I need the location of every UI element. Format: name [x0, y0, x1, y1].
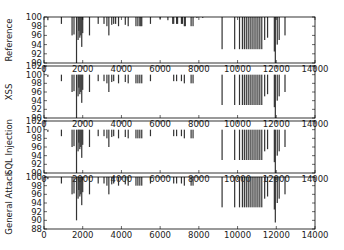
bar	[139, 130, 140, 139]
bar	[128, 130, 129, 139]
bar	[267, 177, 268, 197]
y-tick-label: 100	[26, 12, 42, 22]
bar	[221, 75, 222, 105]
bar	[61, 75, 62, 82]
bar	[251, 177, 252, 207]
bar	[103, 75, 104, 82]
bar	[150, 75, 151, 82]
x-tick-label: 0	[41, 230, 46, 240]
bar	[135, 177, 136, 186]
bar	[128, 177, 129, 186]
bar	[284, 130, 285, 147]
bar	[73, 17, 74, 34]
bar	[141, 17, 142, 26]
bar	[242, 177, 243, 207]
bar	[191, 177, 192, 186]
bar	[118, 17, 119, 26]
bar	[167, 17, 168, 20]
bar	[259, 177, 260, 207]
bar	[103, 177, 104, 184]
bar	[181, 130, 182, 137]
bar	[82, 75, 83, 90]
subplot-reference: 9092949698100020004000600080001000012000…	[4, 12, 329, 74]
bar	[89, 130, 90, 147]
bar	[284, 177, 285, 194]
bar	[244, 177, 245, 207]
bar	[47, 130, 48, 132]
bar	[125, 75, 126, 82]
bar	[98, 17, 99, 24]
bar	[242, 17, 243, 49]
bar	[184, 75, 185, 84]
bar	[264, 17, 265, 40]
bar	[191, 130, 192, 139]
bar	[191, 17, 192, 26]
y-tick-label: 100	[26, 70, 42, 80]
y-tick-label: 94	[31, 198, 42, 208]
bar	[89, 17, 90, 35]
bar	[192, 177, 193, 186]
bar	[137, 17, 138, 26]
bar	[284, 17, 285, 35]
bar	[250, 130, 251, 160]
bar	[125, 130, 126, 137]
y-tick-label: 96	[31, 189, 42, 199]
bar	[277, 75, 278, 101]
bar	[251, 130, 252, 160]
bar	[173, 130, 174, 137]
bars	[47, 17, 285, 63]
bar	[76, 177, 77, 220]
bar	[275, 130, 276, 173]
bar	[248, 130, 249, 160]
bar	[253, 17, 254, 49]
bar	[98, 130, 99, 137]
bar	[259, 130, 260, 160]
bar	[98, 177, 99, 184]
bar	[98, 75, 99, 82]
bar	[242, 130, 243, 160]
y-tick-label: 92	[31, 159, 42, 169]
x-tick-label: 2000	[72, 230, 94, 240]
bar	[264, 177, 265, 199]
bar	[141, 75, 142, 84]
bar	[108, 177, 109, 194]
bar	[76, 17, 77, 63]
bar	[246, 130, 247, 160]
bar	[113, 17, 114, 24]
bar	[234, 130, 235, 160]
y-tick-label: 96	[31, 30, 42, 40]
bar	[176, 75, 177, 82]
bar	[248, 17, 249, 49]
bar	[277, 130, 278, 156]
bar	[128, 75, 129, 84]
bars	[47, 130, 285, 173]
bar	[113, 177, 114, 184]
bar	[279, 130, 280, 152]
bar	[275, 177, 276, 223]
bar	[239, 17, 240, 49]
bar	[139, 177, 140, 186]
bar	[150, 17, 151, 24]
bar	[89, 75, 90, 92]
bar	[139, 75, 140, 84]
bar	[106, 177, 107, 186]
y-tick-label: 94	[31, 40, 42, 50]
bar	[251, 17, 252, 49]
y-tick-label: 98	[31, 133, 42, 143]
bar	[173, 75, 174, 82]
x-tick-label: 14000	[301, 230, 328, 240]
bar	[257, 130, 258, 160]
bar	[176, 130, 177, 137]
y-tick-label: 92	[31, 104, 42, 114]
bar	[150, 177, 151, 184]
bar	[261, 130, 262, 160]
bar	[111, 130, 112, 137]
bar	[118, 177, 119, 186]
bar	[246, 17, 247, 49]
bar	[246, 75, 247, 105]
bar	[255, 177, 256, 207]
bar	[248, 75, 249, 105]
bar	[61, 130, 62, 137]
x-tick-label: 10000	[224, 230, 251, 240]
bar	[181, 75, 182, 82]
